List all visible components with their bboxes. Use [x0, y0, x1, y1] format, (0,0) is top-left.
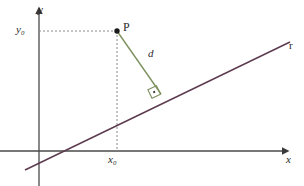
geometry-figure: y x y0 x0 P d r: [0, 0, 304, 186]
y-zero-label: y0: [16, 24, 24, 37]
y-zero-subscript: 0: [21, 29, 24, 36]
right-angle-marker: [148, 86, 161, 99]
x-zero-label: x0: [108, 154, 116, 167]
point-P-label: P: [123, 21, 130, 33]
segment-d-label: d: [148, 48, 154, 59]
segment-d: [117, 31, 161, 94]
point-P-dot: [114, 28, 119, 33]
figure-canvas: [0, 0, 304, 186]
y-axis-label: y: [38, 4, 43, 15]
x-zero-subscript: 0: [113, 159, 116, 166]
x-axis-label: x: [286, 154, 291, 165]
line-r-label: r: [289, 40, 293, 51]
